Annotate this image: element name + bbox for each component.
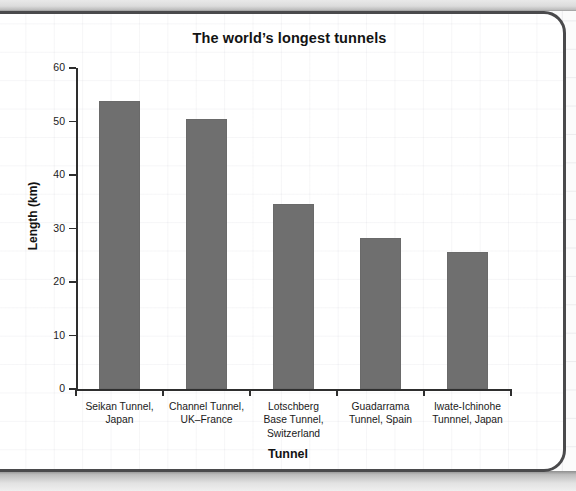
bar xyxy=(447,252,488,389)
y-tick-20 xyxy=(69,281,76,283)
y-tick-label-50: 50 xyxy=(41,115,65,127)
y-tick-40 xyxy=(69,174,76,176)
x-tick-3 xyxy=(336,389,338,396)
y-tick-label-60: 60 xyxy=(41,61,65,73)
x-tick-4 xyxy=(423,389,425,396)
y-tick-label-40: 40 xyxy=(41,168,65,180)
x-category-label: Iwate-IchinoheTunnnel, Japan xyxy=(420,400,516,427)
x-category-label-line: Tunnnel, Japan xyxy=(420,413,516,426)
y-tick-label-10: 10 xyxy=(41,329,65,341)
x-category-label-line: Switzerland xyxy=(246,427,342,440)
x-tick-5 xyxy=(510,389,512,396)
bar xyxy=(99,101,140,389)
x-tick-0 xyxy=(75,389,77,396)
y-axis-line xyxy=(76,68,78,390)
x-category-label: Channel Tunnel,UK–France xyxy=(159,400,255,427)
x-category-label-line: Lotschberg xyxy=(246,400,342,413)
y-tick-label-30: 30 xyxy=(41,222,65,234)
x-category-label-line: Guadarrama xyxy=(333,400,429,413)
x-category-label-line: Iwate-Ichinohe xyxy=(420,400,516,413)
y-tick-60 xyxy=(69,67,76,69)
chart-title: The world’s longest tunnels xyxy=(0,30,576,46)
x-category-label-line: Seikan Tunnel, xyxy=(72,400,168,413)
page-top-edge xyxy=(0,0,576,11)
x-axis-line xyxy=(76,389,512,391)
x-category-label: Seikan Tunnel,Japan xyxy=(72,400,168,427)
x-category-label-line: Channel Tunnel, xyxy=(159,400,255,413)
bar xyxy=(360,238,401,389)
chart-title-text: The world’s longest tunnels xyxy=(190,30,387,46)
y-tick-30 xyxy=(69,228,76,230)
y-tick-label-20: 20 xyxy=(41,275,65,287)
x-category-label-line: Tunnel, Spain xyxy=(333,413,429,426)
y-axis-title: Length (km) xyxy=(26,156,40,276)
x-category-label: GuadarramaTunnel, Spain xyxy=(333,400,429,427)
page-bottom-edge xyxy=(0,471,576,491)
y-tick-10 xyxy=(69,335,76,337)
y-tick-label-0: 0 xyxy=(41,382,65,394)
x-category-label-line: Base Tunnel, xyxy=(246,413,342,426)
bar xyxy=(186,119,227,389)
x-axis-title: Tunnel xyxy=(0,447,576,461)
bar xyxy=(273,204,314,389)
x-category-label-line: Japan xyxy=(72,413,168,426)
x-tick-2 xyxy=(249,389,251,396)
y-tick-50 xyxy=(69,121,76,123)
x-tick-1 xyxy=(162,389,164,396)
x-category-label: LotschbergBase Tunnel,Switzerland xyxy=(246,400,342,440)
x-category-label-line: UK–France xyxy=(159,413,255,426)
